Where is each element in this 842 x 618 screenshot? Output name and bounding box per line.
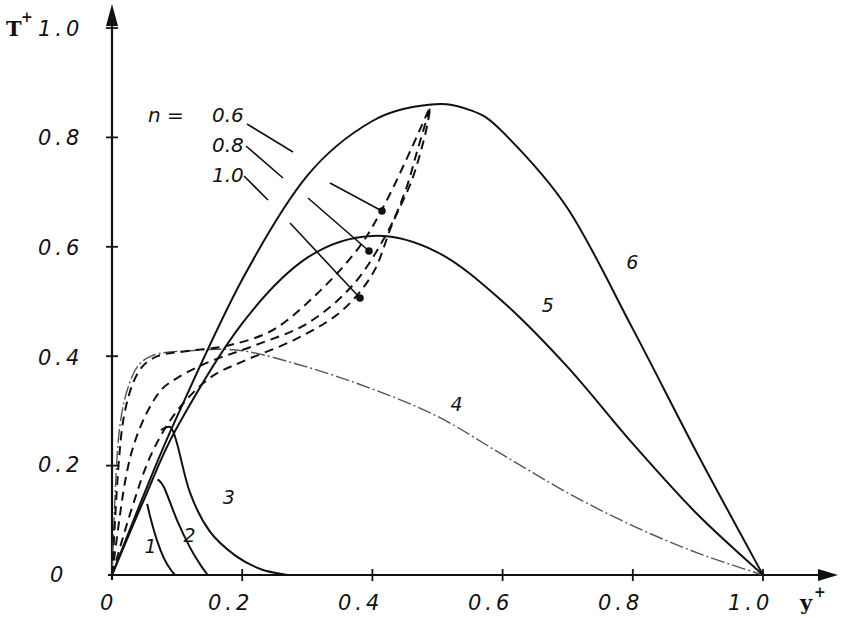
svg-text:T: T [6,16,22,41]
svg-text:+: + [814,584,826,600]
legend-leader-0.6-pointer [330,183,382,211]
x-tick-label: 0.6 [468,591,513,615]
curve-6 [112,104,763,575]
y-tick-label: 0.2 [38,453,83,477]
legend: n = 0.6 0.8 1.0 [148,103,385,301]
legend-prefix: n = [148,103,184,127]
curve-label-2: 2 [184,524,196,546]
legend-entry-1.0: 1.0 [212,163,244,187]
legend-pointer-dot [366,248,372,254]
x-tick-label: 0.4 [338,591,383,615]
x-tick-label: 0 [100,591,117,615]
x-tick-label: 0.8 [598,591,643,615]
legend-entry-0.6: 0.6 [212,103,244,127]
x-tick-label: 0.2 [208,591,253,615]
y-axis-arrow-icon [106,4,118,26]
y-tick-labels: 0 0.2 0.4 0.6 0.8 1.0 [38,17,83,587]
curve-4 [112,349,763,575]
x-tick-labels: 0 0.2 0.4 0.6 0.8 1.0 [100,591,773,615]
chart-figure: 0 0.2 0.4 0.6 0.8 1.0 y + 0 0.2 0.4 0.6 … [0,0,842,618]
y-tick-label: 0.4 [38,346,83,370]
curve-label-1: 1 [145,535,157,557]
legend-leader-0.6 [247,124,293,152]
x-axis-arrow-icon [818,569,838,581]
legend-pointer-dot [379,208,385,214]
curves [112,104,763,575]
legend-leader-0.8 [246,146,283,178]
legend-entry-0.8: 0.8 [212,133,244,157]
curve-5 [112,236,763,575]
y-tick-label: 0.8 [38,126,83,150]
legend-leader-1.0 [244,176,268,200]
curve-label-5: 5 [542,294,554,316]
curve-label-4: 4 [451,393,463,415]
y-axis-title: T + [6,9,33,41]
svg-text:+: + [21,9,33,25]
curve-label-6: 6 [626,251,638,273]
curve-label-3: 3 [223,486,235,508]
x-tick-label: 1.0 [728,591,773,615]
x-axis-title: y + [799,584,826,615]
curve-labels: 123456 [145,251,639,557]
axis-ticks [106,28,763,581]
svg-text:y: y [799,590,813,615]
axes [108,14,822,580]
curve-n-0.8 [112,105,431,575]
y-tick-label: 0.6 [38,236,83,260]
y-tick-label: 0 [50,563,67,587]
legend-pointer-dot [357,295,363,301]
y-tick-label: 1.0 [38,17,83,41]
